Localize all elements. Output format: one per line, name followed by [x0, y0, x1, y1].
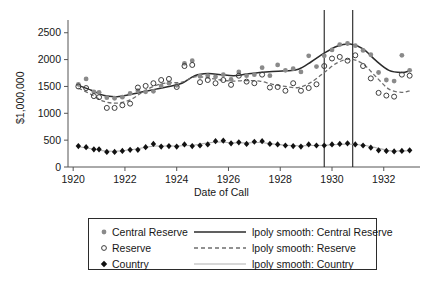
open-circle-marker-icon	[96, 243, 112, 253]
x-axis-tick-label: 1932	[372, 173, 396, 185]
data-point-marker	[112, 105, 117, 110]
y-axis-tick-label: 1000	[38, 107, 62, 119]
chart-legend: Central Reserve Reserve Country lpoly sm…	[88, 218, 377, 270]
data-point-marker	[376, 70, 381, 75]
light-solid-line-icon	[193, 258, 247, 270]
chart-screenshot: $1,000,000 Date of Call 0500100015002000…	[0, 0, 426, 282]
data-point-marker	[229, 77, 234, 82]
x-axis-tick-label: 1926	[217, 173, 241, 185]
data-point-marker	[353, 53, 358, 58]
legend-label-smooth-reserve: lpoly smooth: Reserve	[252, 242, 356, 254]
data-point-marker	[128, 101, 133, 106]
data-point-marker	[252, 139, 257, 145]
legend-row-smooth-reserve: lpoly smooth: Reserve	[193, 240, 356, 256]
data-point-marker	[97, 90, 102, 95]
data-point-marker	[158, 143, 163, 149]
data-point-marker	[275, 63, 280, 68]
data-point-marker	[353, 43, 358, 48]
x-axis-tick-label: 1930	[320, 173, 344, 185]
data-point-marker	[244, 79, 249, 84]
data-point-marker	[267, 141, 272, 147]
data-point-marker	[337, 54, 342, 59]
data-point-marker	[260, 65, 265, 70]
data-point-marker	[182, 141, 187, 147]
legend-row-smooth-central-reserve: lpoly smooth: Central Reserve	[193, 224, 393, 240]
data-point-marker	[104, 149, 109, 155]
data-point-marker	[76, 143, 81, 149]
data-point-marker	[376, 90, 381, 95]
data-point-marker	[283, 142, 288, 148]
data-point-marker	[298, 143, 303, 149]
y-axis-tick-label: 500	[43, 134, 61, 146]
data-point-marker	[330, 56, 335, 61]
data-point-marker	[384, 93, 389, 98]
data-point-marker	[128, 91, 133, 96]
data-point-marker	[407, 73, 412, 78]
data-point-marker	[368, 145, 373, 151]
data-point-marker	[314, 82, 319, 87]
data-point-marker	[236, 139, 241, 145]
x-axis-tick-label: 1928	[269, 173, 293, 185]
data-point-marker	[244, 73, 249, 78]
data-point-marker	[306, 141, 311, 147]
data-point-marker	[120, 148, 125, 154]
smooth-curve	[78, 44, 409, 97]
data-point-marker	[104, 105, 109, 110]
data-point-marker	[96, 146, 101, 152]
data-point-marker	[127, 147, 132, 153]
data-point-marker	[384, 78, 389, 83]
data-point-marker	[213, 74, 218, 79]
solid-line-icon	[193, 226, 247, 238]
x-axis-tick-label: 1922	[113, 173, 137, 185]
data-point-marker	[229, 82, 234, 87]
data-point-marker	[174, 143, 179, 149]
data-point-marker	[291, 81, 296, 86]
legend-label-smooth-central-reserve: lpoly smooth: Central Reserve	[252, 226, 393, 238]
data-point-marker	[112, 96, 117, 101]
legend-row-smooth-country: lpoly smooth: Country	[193, 256, 354, 272]
data-point-marker	[198, 74, 203, 79]
dashed-line-icon	[193, 242, 247, 254]
data-point-marker	[360, 142, 365, 148]
data-point-marker	[120, 103, 125, 108]
data-point-marker	[314, 64, 319, 69]
data-point-marker	[306, 53, 311, 58]
data-point-marker	[159, 78, 164, 83]
data-point-marker	[244, 141, 249, 147]
data-point-marker	[275, 141, 280, 147]
data-point-marker	[221, 72, 226, 77]
y-axis-tick-label: 1500	[38, 80, 62, 92]
data-point-marker	[368, 52, 373, 57]
data-point-marker	[361, 48, 366, 53]
plot-area: 0500100015002000250019201922192419261928…	[0, 0, 426, 210]
data-point-marker	[221, 138, 226, 144]
data-point-marker	[213, 138, 218, 144]
data-point-marker	[252, 72, 257, 77]
data-point-marker	[104, 95, 109, 100]
data-point-marker	[345, 140, 350, 146]
legend-label-country: Country	[112, 258, 149, 270]
data-point-marker	[91, 94, 96, 99]
data-point-marker	[337, 42, 342, 47]
data-point-marker	[337, 141, 342, 147]
data-point-marker	[213, 81, 218, 86]
y-axis-tick-label: 2000	[38, 53, 62, 65]
data-point-marker	[407, 68, 412, 73]
data-point-marker	[159, 84, 164, 89]
legend-label-reserve: Reserve	[112, 242, 151, 254]
data-point-marker	[283, 88, 288, 93]
data-point-marker	[112, 149, 117, 155]
legend-label-central-reserve: Central Reserve	[112, 226, 188, 238]
data-point-marker	[322, 142, 327, 148]
data-point-marker	[151, 89, 156, 94]
data-point-marker	[198, 80, 203, 85]
data-point-marker	[267, 85, 272, 90]
data-point-marker	[322, 53, 327, 58]
data-point-marker	[190, 62, 195, 67]
filled-circle-marker-icon	[96, 227, 112, 237]
data-point-marker	[368, 76, 373, 81]
data-point-marker	[345, 41, 350, 46]
legend-label-smooth-country: lpoly smooth: Country	[252, 258, 354, 270]
data-point-marker	[166, 143, 171, 149]
legend-row-country: Country	[96, 256, 149, 272]
